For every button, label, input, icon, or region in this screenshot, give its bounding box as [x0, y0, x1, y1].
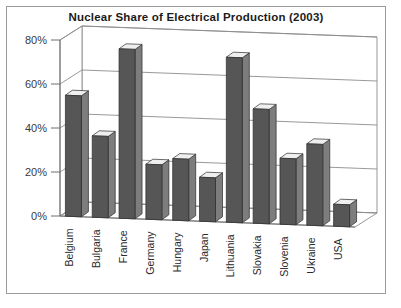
bar[interactable]: [92, 131, 115, 218]
bar-side-face: [296, 154, 303, 225]
bar-side-face: [81, 91, 88, 217]
x-category-label: Lithuania: [224, 234, 236, 277]
bar[interactable]: [280, 153, 303, 225]
y-tick-label: 80%: [25, 34, 47, 46]
bar-front-face: [92, 136, 108, 218]
x-category-label: Japan: [198, 233, 210, 262]
bar-front-face: [307, 144, 323, 226]
bar[interactable]: [200, 172, 223, 222]
bar-front-face: [280, 158, 296, 225]
bar-front-face: [226, 57, 242, 223]
x-category-label: Bulgaria: [90, 229, 102, 268]
bar[interactable]: [226, 52, 249, 223]
x-category-label: Belgium: [63, 228, 75, 266]
bar-side-face: [323, 139, 330, 225]
bar-side-face: [216, 173, 223, 222]
x-category-label: Hungary: [171, 232, 183, 272]
bar[interactable]: [65, 90, 88, 217]
bar[interactable]: [146, 159, 169, 220]
bar[interactable]: [173, 154, 196, 221]
bar-side-face: [269, 104, 276, 223]
bar[interactable]: [334, 199, 357, 227]
bar-front-face: [173, 159, 189, 221]
y-tick-label: 40%: [25, 122, 47, 134]
bar-front-face: [146, 164, 162, 220]
y-tick-label: 0%: [31, 210, 47, 222]
x-category-label: Germany: [144, 231, 156, 275]
x-category-label: USA: [332, 239, 344, 261]
plot-area: 0%20%40%60%80%BelgiumBulgariaFranceGerma…: [25, 26, 377, 277]
x-category-label: Slovakia: [251, 235, 263, 275]
bar[interactable]: [253, 104, 276, 224]
bar-front-face: [253, 109, 269, 224]
bar[interactable]: [307, 139, 330, 226]
bar-side-face: [189, 154, 196, 221]
bar-side-face: [162, 160, 169, 220]
bar-side-face: [135, 44, 142, 218]
x-category-label: Slovenia: [278, 236, 290, 276]
x-category-label: Ukraine: [305, 237, 317, 273]
bar-side-face: [108, 131, 115, 217]
y-tick-label: 60%: [25, 78, 47, 90]
bar-side-face: [242, 53, 249, 223]
bar-front-face: [65, 95, 81, 217]
bar-front-face: [334, 204, 350, 227]
chart-frame: Nuclear Share of Electrical Production (…: [6, 6, 386, 294]
y-tick-label: 20%: [25, 166, 47, 178]
bar-front-face: [200, 177, 216, 222]
bar-chart-plot: 0%20%40%60%80%BelgiumBulgariaFranceGerma…: [7, 7, 387, 295]
bar[interactable]: [119, 44, 142, 219]
bar-front-face: [119, 49, 135, 219]
x-category-label: France: [117, 230, 129, 263]
